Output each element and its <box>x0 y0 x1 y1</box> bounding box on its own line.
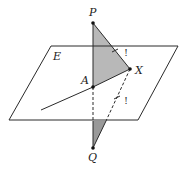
congruence-mark-upper: ! <box>124 47 128 58</box>
point-a <box>91 85 95 89</box>
diagram-canvas: P A X Q E ! ! <box>0 0 185 169</box>
label-p: P <box>88 6 97 19</box>
geometry-figure: P A X Q E ! ! <box>0 0 185 169</box>
line-in-plane <box>41 87 93 110</box>
label-x: X <box>134 64 144 77</box>
label-plane-e: E <box>52 50 61 63</box>
point-x <box>128 67 132 71</box>
congruence-mark-lower: ! <box>124 95 128 106</box>
point-p <box>91 21 95 25</box>
point-q <box>91 146 95 150</box>
label-q: Q <box>88 151 97 164</box>
label-a: A <box>80 74 89 87</box>
